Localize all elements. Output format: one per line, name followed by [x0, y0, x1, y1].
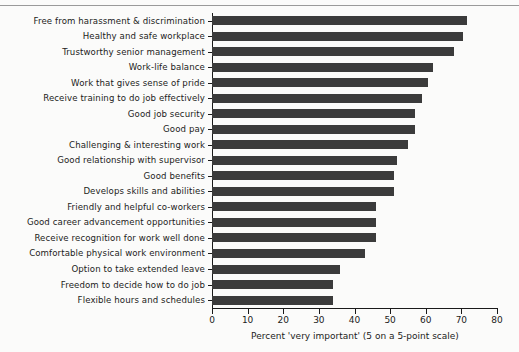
category-label: Work that gives sense of pride — [71, 78, 205, 88]
y-axis-tick — [208, 145, 212, 146]
chart-figure: Free from harassment & discriminationHea… — [0, 0, 519, 352]
category-label: Option to take extended leave — [71, 264, 205, 274]
bar — [212, 202, 376, 211]
x-axis-tick-label: 30 — [313, 315, 324, 325]
bar — [212, 63, 433, 72]
bar — [212, 171, 394, 180]
x-axis-tick — [319, 309, 320, 314]
bar-row: Friendly and helpful co-workers — [212, 199, 497, 215]
x-axis-tick — [461, 309, 462, 314]
category-label: Healthy and safe workplace — [83, 31, 205, 41]
category-label: Receive training to do job effectively — [43, 93, 205, 103]
x-axis-tick-label: 40 — [349, 315, 360, 325]
bar — [212, 16, 467, 25]
top-divider-rule — [0, 5, 519, 6]
x-axis-tick — [248, 309, 249, 314]
bar — [212, 249, 365, 258]
x-axis-tick-label: 80 — [491, 315, 502, 325]
x-axis-title: Percent 'very important' (5 on a 5-point… — [212, 331, 498, 341]
bar — [212, 280, 333, 289]
bar-row: Flexible hours and schedules — [212, 292, 497, 308]
bar-row: Receive recognition for work well done — [212, 230, 497, 246]
plot-area: Free from harassment & discriminationHea… — [212, 13, 497, 308]
bar-row: Challenging & interesting work — [212, 137, 497, 153]
x-axis-tick-label: 60 — [420, 315, 431, 325]
bar-row: Good relationship with supervisor — [212, 153, 497, 169]
bar — [212, 140, 408, 149]
bar-row: Work that gives sense of pride — [212, 75, 497, 91]
category-label: Good pay — [163, 124, 205, 134]
y-axis-tick — [208, 114, 212, 115]
category-label: Good job security — [128, 109, 205, 119]
x-axis-tick-label: 0 — [209, 315, 215, 325]
category-label: Flexible hours and schedules — [78, 295, 205, 305]
bar-row: Comfortable physical work environment — [212, 246, 497, 262]
bar-rows: Free from harassment & discriminationHea… — [212, 13, 497, 308]
x-axis-tick — [355, 309, 356, 314]
category-label: Receive recognition for work well done — [34, 233, 205, 243]
bar — [212, 218, 376, 227]
bar-row: Receive training to do job effectively — [212, 91, 497, 107]
y-axis-tick — [208, 67, 212, 68]
bar-row: Good benefits — [212, 168, 497, 184]
bar-row: Freedom to decide how to do job — [212, 277, 497, 293]
x-axis-tick-labels: 01020304050607080 — [212, 315, 498, 328]
y-axis-tick — [208, 269, 212, 270]
category-label: Freedom to decide how to do job — [61, 280, 205, 290]
x-axis-tick — [426, 309, 427, 314]
bar — [212, 265, 340, 274]
y-axis-tick — [208, 300, 212, 301]
bar — [212, 94, 422, 103]
y-axis-tick — [208, 52, 212, 53]
x-axis-tick-label: 10 — [242, 315, 253, 325]
bar — [212, 78, 428, 87]
bar — [212, 47, 454, 56]
y-axis-tick — [208, 129, 212, 130]
bar-row: Work-life balance — [212, 60, 497, 76]
bar-row: Develops skills and abilities — [212, 184, 497, 200]
x-axis-tick-label: 70 — [456, 315, 467, 325]
y-axis-tick — [208, 98, 212, 99]
category-label: Develops skills and abilities — [83, 186, 205, 196]
y-axis-tick — [208, 36, 212, 37]
bar — [212, 109, 415, 118]
bar-row: Free from harassment & discrimination — [212, 13, 497, 29]
x-axis-tick — [212, 309, 213, 314]
category-label: Good relationship with supervisor — [57, 155, 205, 165]
category-label: Trustworthy senior management — [62, 47, 205, 57]
category-label: Good career advancement opportunities — [27, 217, 205, 227]
category-label: Good benefits — [144, 171, 205, 181]
x-axis-tick — [390, 309, 391, 314]
x-axis-tick-label: 20 — [278, 315, 289, 325]
bar — [212, 32, 463, 41]
bar — [212, 125, 415, 134]
x-axis-tick — [497, 309, 498, 314]
category-label: Friendly and helpful co-workers — [67, 202, 205, 212]
y-axis-tick — [208, 21, 212, 22]
y-axis-tick — [208, 222, 212, 223]
bar-row: Option to take extended leave — [212, 261, 497, 277]
y-axis-tick — [208, 207, 212, 208]
x-axis-tick-label: 50 — [384, 315, 395, 325]
y-axis-tick — [208, 285, 212, 286]
x-axis-tick — [283, 309, 284, 314]
category-label: Challenging & interesting work — [69, 140, 205, 150]
y-axis-tick — [208, 176, 212, 177]
y-axis-tick — [208, 191, 212, 192]
y-axis-tick — [208, 238, 212, 239]
y-axis-tick — [208, 83, 212, 84]
bar — [212, 296, 333, 305]
bar — [212, 156, 397, 165]
bar-row: Healthy and safe workplace — [212, 29, 497, 45]
bar-row: Good job security — [212, 106, 497, 122]
bar-row: Good pay — [212, 122, 497, 138]
category-label: Comfortable physical work environment — [29, 248, 205, 258]
bar-row: Trustworthy senior management — [212, 44, 497, 60]
category-label: Free from harassment & discrimination — [34, 16, 205, 26]
y-axis-tick — [208, 253, 212, 254]
bar-row: Good career advancement opportunities — [212, 215, 497, 231]
category-label: Work-life balance — [129, 62, 205, 72]
y-axis-tick — [208, 160, 212, 161]
bar — [212, 233, 376, 242]
bar — [212, 187, 394, 196]
